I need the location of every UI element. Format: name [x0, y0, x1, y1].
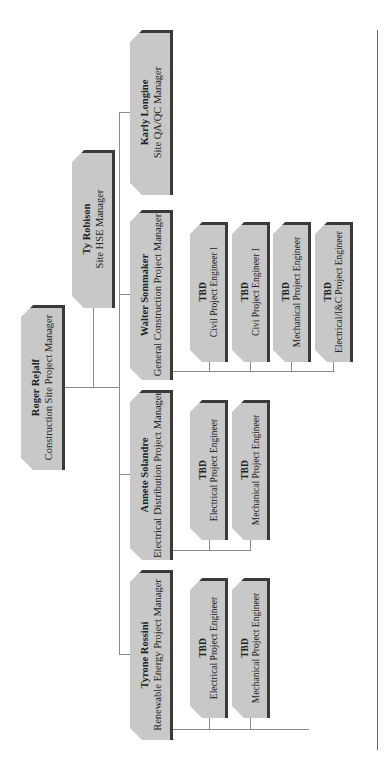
- connector: [93, 308, 94, 388]
- connector: [209, 362, 210, 372]
- node-engineer: TBD Mechanical Project Engineer: [232, 400, 270, 540]
- node-title: Renewable Energy Project Manager: [152, 579, 165, 731]
- node-manager-renewable: Tyrone Rossini Renewable Energy Project …: [130, 570, 173, 740]
- node-title: Electrical/I&C Project Engineer: [334, 231, 345, 353]
- connector: [250, 718, 251, 730]
- node-title: Mechanical Project Engineer: [251, 593, 262, 703]
- node-title: Construction Site Project Manager: [43, 315, 56, 461]
- node-hse-manager: Ty Robison Site HSE Manager: [72, 150, 115, 308]
- connector: [119, 112, 120, 655]
- node-manager-electrical: Annete Solandre Electrical Distribution …: [130, 390, 173, 560]
- node-name: TBD: [281, 282, 292, 302]
- node-engineer: TBD Civil Project Engineer I: [190, 222, 228, 362]
- node-name: Tyrone Rossini: [139, 622, 152, 689]
- node-engineer: TBD Mechanical Project Engineer: [232, 578, 270, 718]
- node-name: TBD: [240, 460, 251, 480]
- node-name: TBD: [240, 282, 251, 302]
- node-title: General Construction Project Manager: [152, 214, 165, 376]
- node-root: Roger Rejalf Construction Site Project M…: [21, 305, 65, 470]
- connector: [209, 718, 210, 730]
- node-title: Civil Project Engineer I: [209, 247, 220, 338]
- node-engineer: TBD Electrical Project Engineer: [190, 578, 228, 718]
- connector: [209, 540, 210, 551]
- org-chart: Roger Rejalf Construction Site Project M…: [0, 0, 385, 758]
- node-title: Site QA/QC Manager: [152, 67, 165, 159]
- connector: [119, 474, 130, 475]
- page-rule: [377, 30, 378, 750]
- node-engineer: TBD Electrical/I&C Project Engineer: [315, 222, 353, 362]
- connector: [250, 540, 251, 551]
- node-engineer: TBD Civi Project Engineer I: [232, 222, 270, 362]
- node-name: Walter Sommaker: [139, 254, 152, 336]
- node-name: TBD: [198, 638, 209, 658]
- connector: [173, 739, 174, 740]
- connector: [291, 362, 292, 372]
- node-title: Mechanical Project Engineer: [251, 415, 262, 525]
- node-title: Electrical Project Engineer: [209, 597, 220, 699]
- connector: [173, 729, 309, 730]
- node-title: Site HSE Manager: [94, 190, 107, 269]
- node-title: Civi Project Engineer I: [251, 248, 262, 336]
- node-manager-construction: Walter Sommaker General Construction Pro…: [130, 210, 173, 380]
- node-manager-qaqc: Karly Longine Site QA/QC Manager: [130, 30, 173, 195]
- connector: [119, 112, 130, 113]
- connector: [119, 654, 130, 655]
- node-engineer: TBD Electrical Project Engineer: [190, 400, 228, 540]
- connector: [250, 362, 251, 372]
- node-name: TBD: [198, 460, 209, 480]
- connector: [333, 362, 334, 372]
- node-name: Ty Robison: [81, 204, 94, 255]
- connector: [119, 294, 130, 295]
- node-name: Karly Longine: [139, 80, 152, 146]
- node-engineer: TBD Mechanical Project Engineer: [273, 222, 311, 362]
- node-name: TBD: [198, 282, 209, 302]
- node-name: Annete Solandre: [139, 438, 152, 513]
- node-name: Roger Rejalf: [30, 359, 43, 416]
- connector: [173, 371, 333, 372]
- connector: [173, 550, 251, 551]
- node-title: Mechanical Project Engineer: [292, 237, 303, 347]
- node-name: TBD: [240, 638, 251, 658]
- node-name: TBD: [323, 282, 334, 302]
- connector: [65, 387, 119, 388]
- node-title: Electrical Distribution Project Manager: [152, 392, 165, 558]
- node-title: Electrical Project Engineer: [209, 419, 220, 521]
